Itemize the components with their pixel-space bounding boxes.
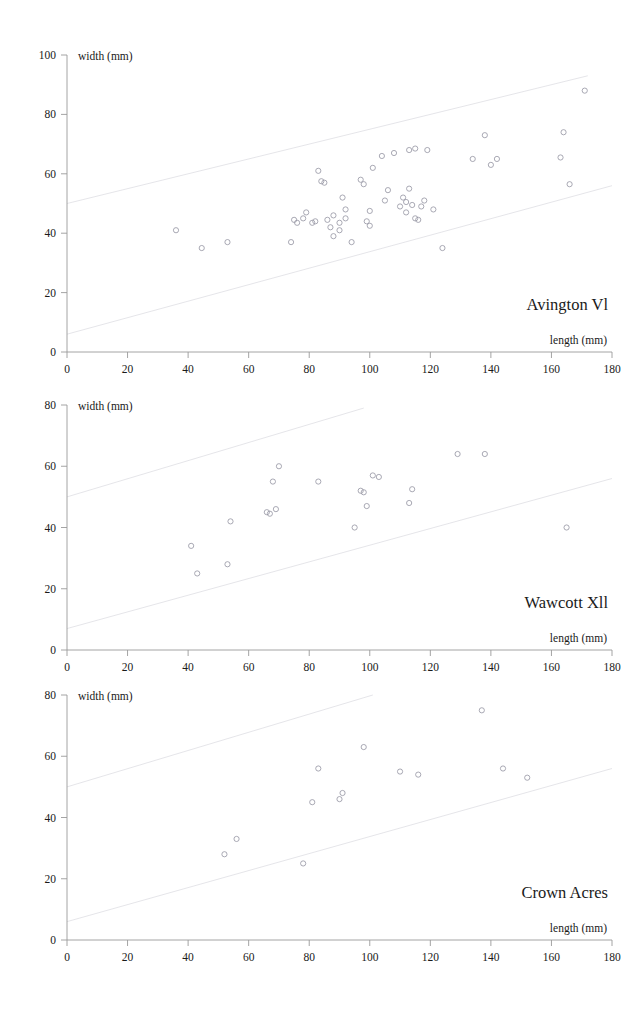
data-point bbox=[325, 217, 330, 222]
data-point bbox=[397, 204, 402, 209]
data-point bbox=[340, 790, 345, 795]
data-point bbox=[322, 180, 327, 185]
data-point bbox=[316, 479, 321, 484]
data-point bbox=[425, 147, 430, 152]
chart-panel-avington: 020406080100020406080100120140160180widt… bbox=[0, 0, 638, 390]
y-tick-label-avington-20: 20 bbox=[45, 287, 57, 299]
y-tick-label-avington-0: 0 bbox=[50, 346, 56, 358]
data-point bbox=[195, 571, 200, 576]
y-tick-label-avington-80: 80 bbox=[45, 108, 57, 120]
data-point bbox=[361, 490, 366, 495]
data-point bbox=[225, 240, 230, 245]
site-name-wawcott: Wawcott Xll bbox=[525, 593, 609, 612]
data-point bbox=[367, 223, 372, 228]
data-point bbox=[376, 474, 381, 479]
site-name-crown-acres: Crown Acres bbox=[521, 883, 608, 902]
x-tick-label-avington-180: 180 bbox=[603, 363, 621, 375]
data-point bbox=[416, 772, 421, 777]
data-point bbox=[404, 210, 409, 215]
scatter-figure: 020406080100020406080100120140160180widt… bbox=[0, 0, 638, 1009]
data-points-crown-acres bbox=[222, 708, 530, 866]
data-point bbox=[340, 195, 345, 200]
y-tick-label-crown-acres-0: 0 bbox=[50, 934, 56, 946]
data-point bbox=[225, 562, 230, 567]
data-point bbox=[558, 155, 563, 160]
data-point bbox=[479, 708, 484, 713]
data-point bbox=[482, 451, 487, 456]
data-point bbox=[295, 220, 300, 225]
data-point bbox=[404, 199, 409, 204]
x-tick-label-wawcott-120: 120 bbox=[422, 661, 440, 673]
data-point bbox=[379, 153, 384, 158]
data-point bbox=[500, 766, 505, 771]
data-point bbox=[276, 464, 281, 469]
data-point bbox=[382, 198, 387, 203]
data-point bbox=[301, 216, 306, 221]
data-point bbox=[361, 182, 366, 187]
data-point bbox=[416, 217, 421, 222]
y-tick-label-avington-60: 60 bbox=[45, 168, 57, 180]
x-tick-label-wawcott-140: 140 bbox=[482, 661, 500, 673]
data-point bbox=[267, 511, 272, 516]
data-point bbox=[567, 182, 572, 187]
x-tick-label-wawcott-80: 80 bbox=[303, 661, 315, 673]
data-points-wawcott bbox=[189, 451, 570, 576]
data-point bbox=[304, 210, 309, 215]
y-axis-title-wawcott: width (mm) bbox=[78, 400, 133, 413]
data-point bbox=[291, 217, 296, 222]
data-point bbox=[352, 525, 357, 530]
data-point bbox=[419, 204, 424, 209]
data-point bbox=[319, 179, 324, 184]
data-point bbox=[431, 207, 436, 212]
data-points-avington bbox=[173, 88, 587, 251]
data-point bbox=[564, 525, 569, 530]
data-point bbox=[385, 188, 390, 193]
y-tick-label-avington-40: 40 bbox=[45, 227, 57, 239]
x-tick-label-wawcott-180: 180 bbox=[603, 661, 621, 673]
y-tick-label-crown-acres-40: 40 bbox=[45, 812, 57, 824]
x-tick-label-wawcott-60: 60 bbox=[243, 661, 255, 673]
data-point bbox=[343, 216, 348, 221]
data-point bbox=[364, 503, 369, 508]
data-point bbox=[349, 240, 354, 245]
data-point bbox=[494, 156, 499, 161]
data-point bbox=[407, 147, 412, 152]
x-tick-label-wawcott-20: 20 bbox=[122, 661, 134, 673]
data-point bbox=[337, 228, 342, 233]
site-name-avington: Avington Vl bbox=[527, 295, 609, 314]
data-point bbox=[422, 198, 427, 203]
x-tick-label-crown-acres-140: 140 bbox=[482, 951, 500, 963]
x-tick-label-crown-acres-80: 80 bbox=[303, 951, 315, 963]
data-point bbox=[173, 228, 178, 233]
data-point bbox=[488, 162, 493, 167]
x-tick-label-avington-40: 40 bbox=[182, 363, 194, 375]
y-tick-label-wawcott-80: 80 bbox=[45, 399, 57, 411]
chart-svg-crown-acres: 020406080020406080100120140160180width (… bbox=[0, 680, 638, 1009]
y-tick-label-wawcott-60: 60 bbox=[45, 460, 57, 472]
x-tick-label-wawcott-160: 160 bbox=[543, 661, 561, 673]
data-point bbox=[264, 510, 269, 515]
x-tick-label-crown-acres-20: 20 bbox=[122, 951, 134, 963]
data-point bbox=[316, 168, 321, 173]
data-point bbox=[310, 800, 315, 805]
data-point bbox=[228, 519, 233, 524]
data-point bbox=[407, 500, 412, 505]
x-tick-label-avington-120: 120 bbox=[422, 363, 440, 375]
data-point bbox=[337, 797, 342, 802]
data-point bbox=[358, 488, 363, 493]
data-point bbox=[582, 88, 587, 93]
data-point bbox=[310, 220, 315, 225]
x-tick-label-avington-80: 80 bbox=[303, 363, 315, 375]
data-point bbox=[440, 245, 445, 250]
data-point bbox=[410, 487, 415, 492]
data-point bbox=[367, 208, 372, 213]
data-point bbox=[413, 146, 418, 151]
data-point bbox=[561, 130, 566, 135]
y-axis-title-crown-acres: width (mm) bbox=[78, 690, 133, 703]
data-point bbox=[370, 165, 375, 170]
y-tick-label-crown-acres-60: 60 bbox=[45, 750, 57, 762]
y-tick-label-avington-100: 100 bbox=[39, 49, 57, 61]
data-point bbox=[301, 861, 306, 866]
data-point bbox=[370, 473, 375, 478]
x-tick-label-crown-acres-180: 180 bbox=[603, 951, 621, 963]
